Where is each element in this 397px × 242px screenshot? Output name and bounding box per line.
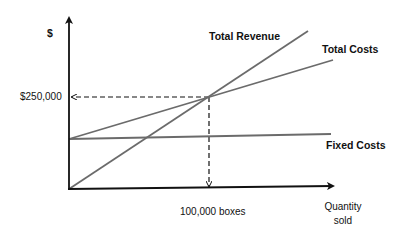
x-reference-label: 100,000 boxes [180,206,246,217]
x-axis-label-line2: sold [323,215,363,226]
x-axis [68,186,333,189]
y-axis-label: $ [47,27,53,39]
total-revenue-label: Total Revenue [209,30,280,42]
fixed-costs-label: Fixed Costs [326,139,386,151]
total-revenue-line [69,31,308,189]
total-costs-line [69,60,333,139]
x-axis-label-line1: Quantity [323,201,363,212]
x-axis-label: Quantity sold [323,201,363,226]
y-reference-label: $250,000 [20,91,62,102]
fixed-costs-line [69,134,331,139]
total-costs-label: Total Costs [322,43,378,55]
